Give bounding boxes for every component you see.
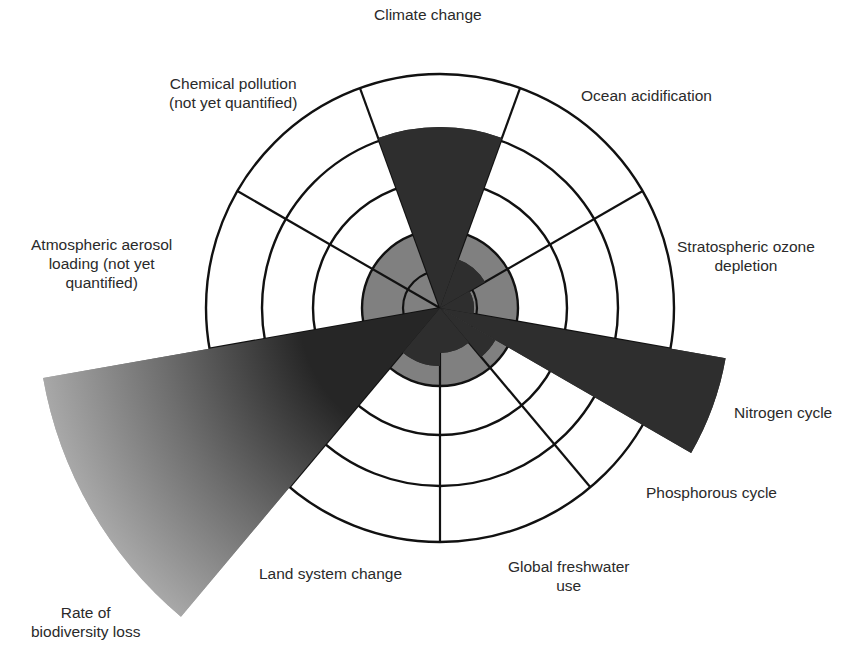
label-aerosol-loading: Atmospheric aerosol loading (not yet qua… [31, 235, 172, 292]
label-ocean-acidification: Ocean acidification [581, 86, 712, 105]
overlay-wedges [43, 127, 725, 617]
label-phosphorous-cycle: Phosphorous cycle [646, 483, 777, 502]
label-freshwater-use: Global freshwater use [508, 557, 629, 595]
label-land-system-change: Land system change [259, 564, 402, 583]
wedge-overlay [440, 308, 726, 453]
planetary-boundaries-diagram [0, 0, 867, 659]
label-biodiversity-loss: Rate of biodiversity loss [31, 603, 140, 641]
label-climate-change: Climate change [374, 5, 482, 24]
label-nitrogen-cycle: Nitrogen cycle [734, 403, 832, 422]
label-ozone-depletion: Stratospheric ozone depletion [677, 237, 815, 275]
label-chemical-pollution: Chemical pollution (not yet quantified) [169, 74, 297, 112]
